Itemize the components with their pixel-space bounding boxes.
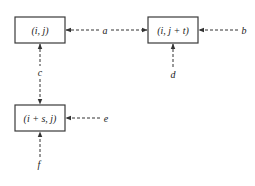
edge-d: d — [171, 44, 177, 80]
node-i-plus-s-j: (i + s, j) — [15, 105, 65, 131]
dependency-diagram: a b c d e f (i, j) (i, j + t) (i + s, j) — [0, 0, 255, 186]
edge-a: a — [66, 23, 147, 36]
edge-f: f — [38, 132, 42, 170]
node-i-plus-s-j-label: (i + s, j) — [24, 113, 58, 125]
edge-b: b — [199, 25, 247, 36]
node-i-j: (i, j) — [15, 17, 65, 43]
node-i-j-plus-t-label: (i, j + t) — [157, 25, 189, 37]
edge-c: c — [35, 44, 45, 104]
edge-f-label: f — [38, 159, 42, 170]
edge-d-label: d — [171, 69, 177, 80]
node-i-j-label: (i, j) — [31, 25, 49, 37]
edge-b-label: b — [242, 25, 247, 36]
edge-e: e — [66, 113, 109, 124]
edge-a-label: a — [103, 25, 108, 36]
edge-e-label: e — [104, 113, 109, 124]
edge-c-label: c — [38, 67, 43, 78]
node-i-j-plus-t: (i, j + t) — [148, 17, 198, 43]
